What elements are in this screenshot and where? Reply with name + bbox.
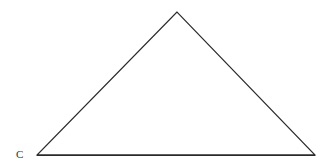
triangle-shape (37, 12, 315, 155)
vertex-label-c: C (16, 148, 23, 160)
triangle-diagram: C (0, 0, 335, 166)
